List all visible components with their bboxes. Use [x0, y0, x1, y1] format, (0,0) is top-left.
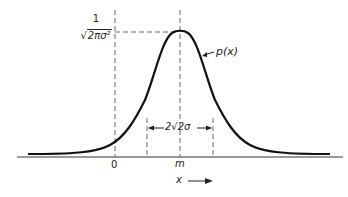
peak-value-label: 1 √2πσ²: [70, 13, 122, 43]
width-arrow-right-head: [206, 126, 212, 131]
peak-label-numerator: 1: [70, 13, 122, 24]
mean-label: m: [175, 158, 185, 169]
x-direction-arrowhead: [205, 178, 213, 184]
width-arrow-left-head: [148, 126, 154, 131]
gaussian-diagram: [0, 0, 348, 197]
curve-label: p(x): [216, 45, 238, 58]
curve-label-arrowhead: [202, 52, 207, 57]
gaussian-curve: [28, 31, 330, 154]
peak-label-denominator: 2πσ²: [87, 29, 112, 42]
origin-label: 0: [111, 159, 117, 170]
x-axis-label: x: [176, 174, 182, 185]
width-label: 2√2σ: [165, 121, 190, 132]
